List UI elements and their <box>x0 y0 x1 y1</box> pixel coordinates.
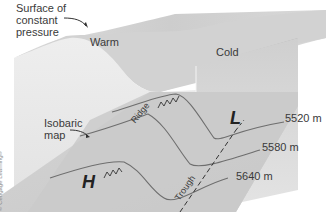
copyright-text: © Cengage Learning® <box>0 151 3 211</box>
isobaric-map-label: Isobaric map <box>44 117 83 141</box>
cold-label: Cold <box>216 46 239 58</box>
low-pressure-label: L <box>230 112 241 124</box>
contour-label-5520: 5520 m <box>285 112 322 124</box>
contour-label-5580: 5580 m <box>262 141 299 153</box>
upper-air-ridge-trough-diagram: Surface of constant pressure Warm Cold I… <box>0 0 326 212</box>
surface-arrow <box>64 18 86 26</box>
contour-label-5640: 5640 m <box>236 170 273 182</box>
high-pressure-label: H <box>82 176 95 188</box>
warm-label: Warm <box>90 36 119 48</box>
arrow-head <box>84 22 88 28</box>
surface-label: Surface of constant pressure <box>16 2 66 38</box>
